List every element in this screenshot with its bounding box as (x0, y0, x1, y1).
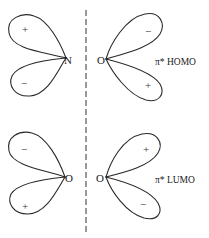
homo-right-upper-sign: − (145, 25, 151, 37)
homo-left-upper-sign: + (22, 23, 28, 35)
homo-right-lower-lobe (106, 59, 162, 101)
homo-right-upper-lobe (106, 14, 162, 59)
lumo-left-atom: O (65, 172, 73, 184)
homo-left-lower-sign: − (21, 77, 27, 89)
homo-label: π* HOMO (155, 57, 196, 67)
lumo-panel: − + O + − O π* LUMO (9, 132, 195, 218)
lumo-left-upper-sign: − (21, 143, 27, 155)
lumo-left-lower-lobe (10, 177, 65, 214)
homo-panel: + − N − + O π* HOMO (9, 14, 196, 101)
lumo-label: π* LUMO (155, 175, 195, 185)
lumo-right-upper-lobe (106, 134, 160, 177)
lumo-right-atom: O (96, 172, 104, 184)
lumo-right-upper-sign: + (143, 143, 149, 155)
homo-left-atom: N (64, 54, 72, 66)
homo-left-upper-lobe (9, 15, 66, 58)
lumo-right-lower-lobe (106, 177, 160, 219)
homo-left-lower-lobe (11, 58, 66, 96)
lumo-left-lower-sign: + (22, 200, 28, 212)
orbital-diagram: + − N − + O π* HOMO − + O + − O π* LUMO (0, 0, 209, 238)
lumo-left-upper-lobe (9, 132, 65, 177)
homo-right-lower-sign: + (145, 79, 151, 91)
homo-right-atom: O (97, 54, 105, 66)
lumo-right-lower-sign: − (140, 198, 146, 210)
